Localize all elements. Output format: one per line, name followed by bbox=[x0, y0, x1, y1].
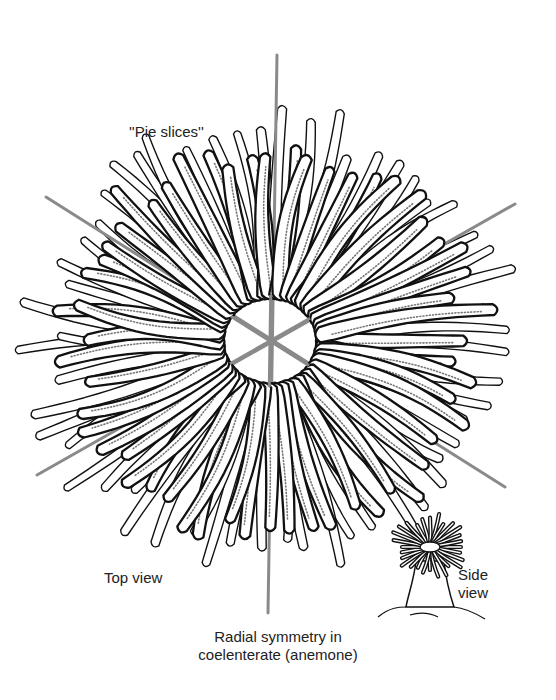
side-view-label-line-2: view bbox=[458, 584, 488, 602]
caption-line-2: coelenterate (anemone) bbox=[168, 646, 388, 664]
side-view-label-line-1: Side bbox=[458, 566, 488, 584]
figure-caption: Radial symmetry in coelenterate (anemone… bbox=[168, 628, 388, 664]
pie-slices-label: ''Pie slices'' bbox=[129, 123, 204, 141]
top-view-label: Top view bbox=[104, 569, 162, 587]
caption-line-1: Radial symmetry in bbox=[168, 628, 388, 646]
side-view-rock bbox=[378, 607, 485, 619]
side-view-label: Side view bbox=[458, 566, 488, 602]
side-view-oral-disc bbox=[420, 542, 440, 552]
